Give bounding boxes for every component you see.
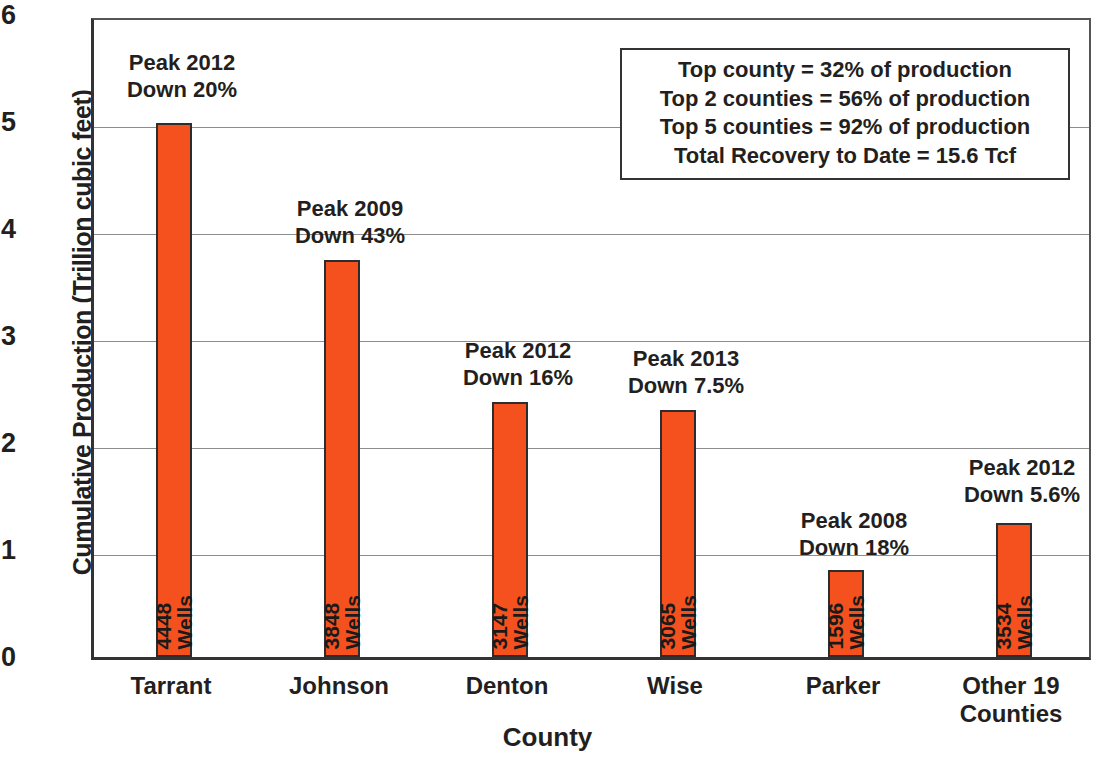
bar-slot-johnson: 3848 Wells	[262, 15, 422, 657]
peak-annotation-johnson: Peak 2009 Down 43%	[295, 196, 405, 250]
bar-chart: Cumulative Production (Trillion cubic fe…	[0, 0, 1095, 764]
bar-wells-unit: Wells	[678, 595, 699, 649]
bar-value-label-johnson: 3848 Wells	[321, 595, 363, 649]
bar-slot-denton: 3147 Wells	[430, 15, 590, 657]
bar-value-label-parker: 1596 Wells	[825, 595, 867, 649]
cat-label-tarrant: Tarrant	[131, 672, 212, 700]
bar-wells-count: 3065	[657, 595, 678, 649]
bar-wise[interactable]: 3065 Wells	[660, 410, 696, 657]
cat-label-parker: Parker	[806, 672, 881, 700]
cat-label-line1: Johnson	[289, 672, 389, 700]
peak-year: Peak 2008	[799, 508, 909, 535]
peak-decline: Down 16%	[463, 365, 573, 392]
bar-value-label-other-19-counties: 3534 Wells	[993, 595, 1035, 649]
cat-label-denton: Denton	[466, 672, 549, 700]
bar-wells-unit: Wells	[846, 595, 867, 649]
peak-year: Peak 2012	[127, 50, 237, 77]
cat-label-wise: Wise	[647, 672, 703, 700]
bar-wells-count: 4448	[153, 595, 174, 649]
peak-year: Peak 2012	[463, 338, 573, 365]
bar-other-19-counties[interactable]: 3534 Wells	[996, 523, 1032, 657]
peak-annotation-other-19-counties: Peak 2012 Down 5.6%	[964, 455, 1080, 509]
y-tick-6: 6	[0, 0, 16, 31]
peak-decline: Down 7.5%	[628, 373, 744, 400]
peak-decline: Down 20%	[127, 77, 237, 104]
y-tick-1: 1	[0, 535, 16, 566]
callout-line-2: Top 2 counties = 56% of production	[632, 85, 1058, 114]
peak-annotation-wise: Peak 2013 Down 7.5%	[628, 346, 744, 400]
bar-wells-count: 3147	[489, 595, 510, 649]
peak-year: Peak 2009	[295, 196, 405, 223]
peak-year: Peak 2012	[964, 455, 1080, 482]
peak-annotation-denton: Peak 2012 Down 16%	[463, 338, 573, 392]
cat-label-line1: Other 19	[960, 672, 1063, 700]
peak-decline: Down 18%	[799, 535, 909, 562]
bar-wells-unit: Wells	[174, 595, 195, 649]
summary-callout-box: Top county = 32% of production Top 2 cou…	[620, 48, 1070, 180]
y-tick-2: 2	[0, 428, 16, 459]
cat-label-other-19-counties: Other 19 Counties	[960, 672, 1063, 729]
x-axis-title: County	[0, 722, 1095, 753]
peak-year: Peak 2013	[628, 346, 744, 373]
bar-johnson[interactable]: 3848 Wells	[324, 260, 360, 657]
bar-parker[interactable]: 1596 Wells	[828, 570, 864, 657]
callout-line-4: Total Recovery to Date = 15.6 Tcf	[632, 142, 1058, 171]
bar-value-label-denton: 3147 Wells	[489, 595, 531, 649]
cat-label-line1: Wise	[647, 672, 703, 700]
bar-wells-count: 3848	[321, 595, 342, 649]
callout-line-3: Top 5 counties = 92% of production	[632, 113, 1058, 142]
bar-wells-unit: Wells	[1014, 595, 1035, 649]
bar-value-label-tarrant: 4448 Wells	[153, 595, 195, 649]
cat-label-line1: Parker	[806, 672, 881, 700]
cat-label-line1: Tarrant	[131, 672, 212, 700]
bar-value-label-wise: 3065 Wells	[657, 595, 699, 649]
bar-denton[interactable]: 3147 Wells	[492, 402, 528, 657]
peak-annotation-tarrant: Peak 2012 Down 20%	[127, 50, 237, 104]
callout-line-1: Top county = 32% of production	[632, 56, 1058, 85]
bar-wells-unit: Wells	[510, 595, 531, 649]
y-tick-5: 5	[0, 107, 16, 138]
cat-label-johnson: Johnson	[289, 672, 389, 700]
cat-label-line1: Denton	[466, 672, 549, 700]
bar-wells-unit: Wells	[342, 595, 363, 649]
y-tick-0: 0	[0, 642, 16, 673]
bar-wells-count: 3534	[993, 595, 1014, 649]
bar-wells-count: 1596	[825, 595, 846, 649]
bar-tarrant[interactable]: 4448 Wells	[156, 123, 192, 657]
bar-slot-tarrant: 4448 Wells	[94, 15, 254, 657]
peak-decline: Down 5.6%	[964, 482, 1080, 509]
y-tick-4: 4	[0, 214, 16, 245]
peak-annotation-parker: Peak 2008 Down 18%	[799, 508, 909, 562]
y-tick-3: 3	[0, 321, 16, 352]
peak-decline: Down 43%	[295, 223, 405, 250]
